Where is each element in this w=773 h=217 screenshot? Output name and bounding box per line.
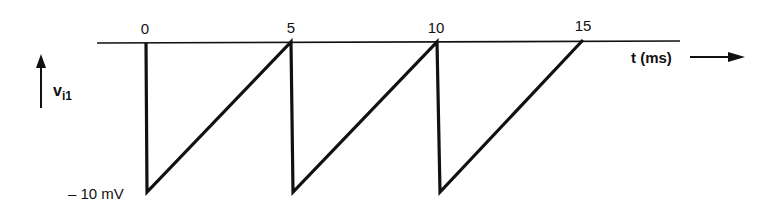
x-axis-label: t (ms) — [631, 49, 672, 66]
y-min-annotation: – 10 mV — [68, 185, 124, 202]
x-tick-0: 0 — [141, 20, 149, 37]
sawtooth-waveform-figure: 0 5 10 15 t (ms) vi1 – 10 mV — [0, 0, 773, 217]
x-tick-5: 5 — [287, 19, 295, 36]
y-axis-label-subscript: i1 — [62, 89, 72, 103]
right-arrow-icon — [690, 52, 745, 62]
time-axis — [97, 41, 680, 43]
chart-canvas: 0 5 10 15 t (ms) vi1 – 10 mV — [0, 0, 773, 217]
y-axis-label: vi1 — [53, 82, 72, 103]
x-tick-15: 15 — [575, 17, 592, 34]
y-axis-label-main: v — [53, 82, 62, 99]
x-tick-10: 10 — [428, 19, 445, 36]
up-arrow-icon — [36, 54, 46, 108]
waveform-line — [146, 40, 583, 192]
